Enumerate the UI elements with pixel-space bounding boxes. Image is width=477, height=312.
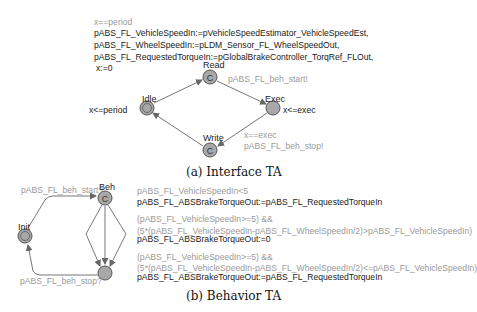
- exec-invariant: x<=exec: [283, 105, 316, 115]
- svg-text:C: C: [207, 73, 214, 83]
- node-label-idle: Idle: [142, 94, 157, 104]
- branch-3-update: pABS_FL_ABSBrakeTorqueOut:=pABS_FL_Reque…: [137, 272, 382, 282]
- node-label-beh: Beh: [99, 182, 115, 192]
- edge-idle-read: [154, 80, 202, 103]
- node-read: C: [203, 70, 217, 84]
- node-label-read: Read: [203, 60, 225, 70]
- edge-end-init: [28, 245, 98, 275]
- update-line-3: pABS_FL_RequestedTorqueIn:=pGlobalBrakeC…: [94, 52, 373, 62]
- node-label-exec: Exec: [265, 94, 285, 104]
- update-line-4: x:=0: [96, 63, 112, 73]
- branch-1-update: pABS_FL_ABSBrakeTorqueOut:=pABS_FL_Reque…: [137, 197, 382, 207]
- update-line-2: pABS_FL_WheelSpeedIn:=pLDM_Sensor_FL_Whe…: [94, 40, 339, 50]
- edge-beh-end-1: [86, 205, 102, 266]
- svg-text:C: C: [102, 194, 109, 204]
- edge-init-beh: [28, 196, 96, 228]
- branch-2-guard-1: (pABS_FL_VehicleSpeedIn>=5) &&: [137, 214, 273, 224]
- caption-behavior-ta: (b) Behavior TA: [186, 289, 281, 303]
- branch-2-update: pABS_FL_ABSBrakeTorqueOut:=0: [137, 234, 271, 244]
- branch-1-guard: pABS_FL_VehicleSpeedIn<5: [137, 186, 248, 196]
- edge-sync-beh-start-recv: pABS_FL_beh_start?: [21, 185, 103, 195]
- node-write: C: [203, 143, 217, 157]
- node-label-write: Write: [203, 133, 224, 143]
- exec-write-guard: x==exec: [244, 130, 277, 140]
- edge-read-exec: [217, 81, 266, 104]
- edge-sync-beh-stop-recv: pABS_FL_beh_stop?: [20, 276, 102, 286]
- svg-text:C: C: [207, 146, 214, 156]
- caption-interface-ta: (a) Interface TA: [186, 165, 282, 179]
- edge-beh-end-3: [108, 205, 126, 266]
- branch-3-guard-1: (pABS_FL_VehicleSpeedIn>=5) &&: [137, 252, 273, 262]
- node-label-init: Init: [18, 222, 30, 232]
- edge-sync-beh-start: pABS_FL_beh_start!: [228, 74, 308, 84]
- edge-write-idle: [153, 113, 203, 146]
- idle-read-guard: x==period: [94, 17, 132, 27]
- edge-sync-beh-stop: pABS_FL_beh_stop!: [244, 141, 323, 151]
- idle-invariant: x<=period: [89, 105, 127, 115]
- update-line-1: pABS_FL_VehicleSpeedIn:=pVehicleSpeedEst…: [94, 28, 368, 38]
